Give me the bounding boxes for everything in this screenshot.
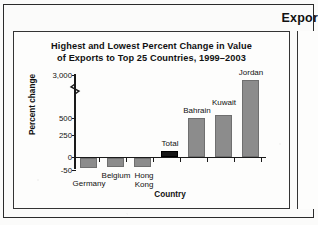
bar-label-jordan: Jordan — [231, 68, 271, 77]
y-tick-label-500: 500 — [38, 114, 72, 123]
bar-label-kuwait: Kuwait — [204, 98, 244, 107]
bar-label-bahrain: Bahrain — [177, 106, 217, 115]
adjacent-column-panel — [297, 31, 318, 209]
bar-kuwait[interactable] — [215, 115, 232, 157]
plot-area: Percent change 3,000 500 250 0 -50 — [14, 32, 291, 210]
bar-belgium[interactable] — [107, 158, 124, 167]
x-tick-mark-5 — [207, 158, 208, 162]
x-tick-mark-1 — [99, 158, 100, 162]
figure-container: Highest and Lowest Percent Change in Val… — [13, 31, 290, 209]
x-tick-mark-7 — [261, 158, 262, 162]
bar-label-germany: Germany — [64, 179, 114, 188]
y-tick-label-3000: 3,000 — [38, 71, 72, 80]
y-tick-label-neg50: -50 — [38, 166, 72, 175]
x-tick-mark-6 — [234, 158, 235, 162]
bar-bahrain[interactable] — [188, 118, 205, 157]
y-tick-mark-neg50 — [72, 170, 76, 171]
x-tick-mark-3 — [153, 158, 154, 162]
bar-label-hong-kong-line-2: Kong — [135, 180, 154, 189]
bar-label-hong-kong-line-1: Hong — [134, 171, 153, 180]
bar-hong-kong[interactable] — [134, 158, 151, 167]
bar-total[interactable] — [161, 151, 178, 157]
bar-jordan[interactable] — [242, 80, 259, 157]
y-axis-label: Percent change — [28, 65, 37, 145]
x-axis-label: Country — [74, 190, 266, 199]
bar-label-hong-kong: HongKong — [128, 171, 160, 189]
scanned-page: Expor Highest and Lowest Percent Change … — [0, 0, 318, 225]
x-tick-mark-4 — [180, 158, 181, 162]
axis-break-icon — [69, 80, 81, 96]
page-running-head: Expor — [150, 11, 318, 27]
x-axis-zero-line — [74, 157, 266, 159]
y-tick-label-250: 250 — [38, 131, 72, 140]
x-tick-mark-2 — [126, 158, 127, 162]
bar-germany[interactable] — [80, 158, 97, 168]
bar-label-total: Total — [153, 139, 187, 148]
y-tick-label-0: 0 — [38, 153, 72, 162]
